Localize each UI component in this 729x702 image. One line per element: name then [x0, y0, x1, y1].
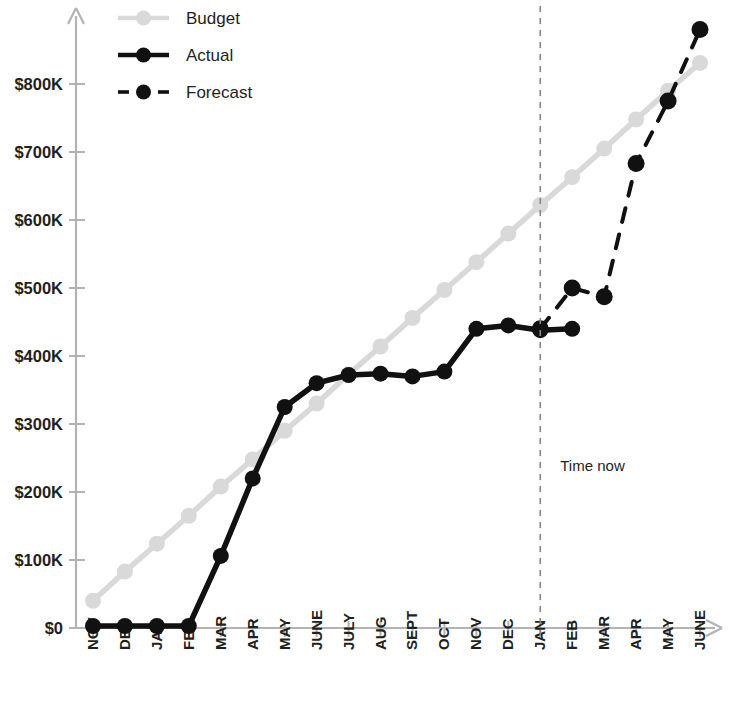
chart-container: $0$100K$200K$300K$400K$500K$600K$700K$80…	[0, 0, 729, 702]
y-axis-tick-label: $700K	[14, 143, 63, 161]
x-axis-tick-label: NOV	[467, 617, 484, 650]
chart-legend: BudgetActualForecast	[118, 9, 252, 102]
y-axis: $0$100K$200K$300K$400K$500K$600K$700K$80…	[14, 8, 85, 637]
legend-label: Actual	[186, 46, 233, 65]
data-point-budget	[596, 141, 612, 157]
data-point-budget	[468, 254, 484, 270]
x-axis-tick-label: APR	[244, 618, 261, 650]
data-point-budget	[628, 111, 644, 127]
legend-item-budget[interactable]: Budget	[118, 9, 240, 28]
data-point-forecast	[564, 280, 581, 297]
x-axis-tick-label: APR	[627, 618, 644, 650]
data-point-actual	[500, 317, 516, 333]
legend-label: Forecast	[186, 83, 252, 102]
data-series-group	[85, 21, 709, 634]
data-point-actual	[117, 618, 133, 634]
y-axis-tick-label: $0	[45, 619, 63, 637]
x-axis-tick-label: DEC	[499, 618, 516, 650]
data-point-budget	[373, 339, 389, 355]
y-axis-tick-label: $100K	[14, 551, 63, 569]
legend-marker	[136, 11, 151, 26]
data-point-forecast	[628, 155, 645, 172]
series-line-actual	[93, 325, 572, 626]
legend-label: Budget	[186, 9, 240, 28]
data-point-budget	[149, 536, 165, 552]
data-point-budget	[309, 396, 325, 412]
data-point-budget	[213, 479, 229, 495]
y-axis-tick-label: $600K	[14, 211, 63, 229]
data-point-forecast	[596, 288, 613, 305]
x-axis-tick-label: MAR	[212, 616, 229, 650]
line-chart-svg: $0$100K$200K$300K$400K$500K$600K$700K$80…	[0, 0, 729, 702]
data-point-forecast	[692, 21, 709, 38]
x-axis-tick-label: JUNE	[308, 610, 325, 650]
y-axis-tick-label: $800K	[14, 75, 63, 93]
data-point-budget	[405, 310, 421, 326]
data-point-budget	[117, 564, 133, 580]
data-point-actual	[149, 618, 165, 634]
x-axis-tick-label: MAR	[595, 616, 612, 650]
data-point-actual	[245, 470, 261, 486]
legend-marker	[136, 48, 151, 63]
y-axis-tick-label: $500K	[14, 279, 63, 297]
x-axis-tick-label: FEB	[563, 620, 580, 650]
data-point-budget	[692, 55, 708, 71]
data-point-actual	[309, 375, 325, 391]
data-point-actual	[181, 618, 197, 634]
x-axis-tick-label: SEPT	[403, 611, 420, 650]
data-point-actual	[373, 366, 389, 382]
x-axis: NOVDECJANFEBMARAPRMAYJUNEJULYAUGSEPTOCTN…	[76, 610, 722, 650]
series-line-forecast	[540, 30, 700, 329]
data-point-actual	[405, 368, 421, 384]
x-axis-tick-label: MAY	[659, 618, 676, 650]
y-axis-tick-label: $200K	[14, 483, 63, 501]
x-axis-tick-label: JUNE	[691, 610, 708, 650]
y-axis-tick-label: $300K	[14, 415, 63, 433]
x-axis-tick-label: AUG	[372, 617, 389, 650]
legend-item-forecast[interactable]: Forecast	[118, 83, 252, 102]
data-point-budget	[85, 593, 101, 609]
y-axis-tick-label: $400K	[14, 347, 63, 365]
data-point-actual	[277, 399, 293, 415]
data-point-actual	[85, 618, 101, 634]
data-point-budget	[436, 282, 452, 298]
data-point-budget	[500, 226, 516, 242]
x-axis-tick-label: JULY	[340, 613, 357, 650]
data-point-actual	[341, 367, 357, 383]
legend-item-actual[interactable]: Actual	[118, 46, 233, 65]
data-point-actual	[436, 364, 452, 380]
data-point-actual	[564, 321, 580, 337]
legend-marker	[136, 85, 151, 100]
time-now-label: Time now	[560, 457, 625, 474]
annotation-group: Time now	[540, 6, 625, 642]
data-point-budget	[564, 169, 580, 185]
data-point-forecast	[660, 93, 677, 110]
x-axis-tick-label: MAY	[276, 618, 293, 650]
data-point-budget	[181, 508, 197, 524]
data-point-actual	[468, 321, 484, 337]
x-axis-tick-label: OCT	[435, 618, 452, 650]
data-point-actual	[213, 548, 229, 564]
